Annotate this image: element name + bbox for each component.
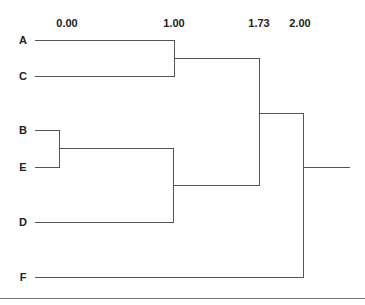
- branch-ac-bed: [174, 59, 260, 186]
- axis-tick-2: 2.00: [289, 17, 310, 29]
- leaf-label-c: C: [19, 70, 27, 82]
- axis-tick-1: 1.00: [163, 17, 184, 29]
- leaf-label-e: E: [19, 161, 26, 173]
- leaf-label-b: B: [19, 124, 27, 136]
- leaf-label-a: A: [19, 34, 27, 46]
- branch-b-e: [35, 131, 60, 168]
- branch-a-c: [35, 41, 175, 77]
- branch-root-f: [35, 114, 304, 278]
- branches: [35, 41, 351, 278]
- axis-tick-0: 0.00: [56, 17, 77, 29]
- branch-be-d: [35, 149, 174, 223]
- dendrogram: 0.00 1.00 1.73 2.00 A C B E D F: [0, 0, 365, 305]
- distance-axis: 0.00 1.00 1.73 2.00: [56, 17, 310, 29]
- axis-tick-1-73: 1.73: [248, 17, 269, 29]
- leaf-label-f: F: [20, 271, 27, 283]
- leaf-label-d: D: [19, 216, 27, 228]
- leaf-labels: A C B E D F: [19, 34, 27, 283]
